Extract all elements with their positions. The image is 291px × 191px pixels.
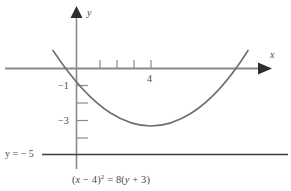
y-tick-label-minus-1: −1 — [58, 81, 69, 91]
x-tick-marks — [100, 60, 151, 68]
equation-lhs-mid: − 4) — [80, 174, 100, 185]
x-axis-arrowhead-icon — [258, 63, 272, 75]
y-tick-label-minus-3: −3 — [58, 116, 69, 126]
equation-equals: = 8( — [104, 174, 124, 185]
x-axis-label: x — [270, 50, 274, 60]
y-axis-label: y — [87, 8, 91, 18]
equation-caption: (x − 4)2 = 8(y + 3) — [72, 175, 150, 186]
equation-rhs-close: + 3) — [130, 174, 150, 185]
directrix-label: y = − 5 — [5, 149, 34, 159]
x-tick-label-4: 4 — [147, 74, 152, 84]
graph-canvas — [0, 0, 291, 191]
y-axis-arrowhead-icon — [71, 6, 83, 18]
